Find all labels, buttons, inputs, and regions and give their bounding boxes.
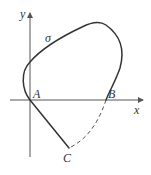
sigma-label: σ (45, 31, 52, 45)
point-a-label: A (32, 87, 41, 101)
point-b-label: B (108, 87, 116, 101)
diagram-canvas: y x σ A B C (0, 0, 151, 175)
x-axis-label: x (133, 103, 140, 117)
point-c-label: C (63, 151, 72, 165)
curve-solid (23, 23, 122, 148)
y-axis-label: y (19, 7, 26, 21)
curve-dashed (69, 100, 106, 148)
